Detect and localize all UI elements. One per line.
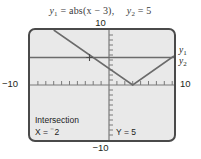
- axis-label-ymax: 10: [0, 17, 201, 28]
- equation-y1-body: = abs(x − 3),: [60, 5, 114, 16]
- intersection-cursor-icon: [86, 54, 93, 61]
- status-x-readout: X = ⁻2: [35, 126, 79, 138]
- axis-label-ymin: −10: [0, 142, 201, 153]
- status-title: Intersection: [35, 115, 79, 126]
- status-readout: Intersection X = ⁻2: [35, 115, 79, 137]
- axis-label-xmax: 10: [180, 78, 191, 89]
- curve-label-y2: y2: [179, 56, 187, 68]
- axis-label-xmin: −10: [2, 78, 18, 89]
- status-x-label: X =: [35, 127, 48, 137]
- curve-label-y2-subscript: 2: [183, 60, 187, 68]
- equation-y2-body: = 5: [138, 5, 152, 16]
- graphing-calculator-screen: Intersection X = ⁻2 Y = 5: [28, 28, 176, 142]
- status-y-readout: Y = 5: [116, 127, 136, 138]
- status-x-value: 2: [54, 127, 59, 137]
